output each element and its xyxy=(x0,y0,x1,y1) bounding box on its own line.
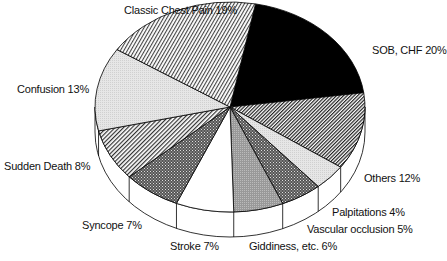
label-syncope: Syncope 7% xyxy=(82,219,142,231)
label-sob-chf: SOB, CHF 20% xyxy=(372,44,447,56)
label-classic-chest-pain: Classic Chest Pain 19% xyxy=(124,4,237,16)
label-giddiness: Giddiness, etc. 6% xyxy=(249,240,337,252)
pie-slices xyxy=(95,2,365,212)
label-palpitations: Palpitations 4% xyxy=(332,206,405,218)
label-confusion: Confusion 13% xyxy=(17,83,89,95)
label-vascular-occlusion: Vascular occlusion 5% xyxy=(307,223,413,235)
label-stroke: Stroke 7% xyxy=(170,240,219,252)
label-others: Others 12% xyxy=(364,172,420,184)
label-sudden-death: Sudden Death 8% xyxy=(4,160,90,172)
